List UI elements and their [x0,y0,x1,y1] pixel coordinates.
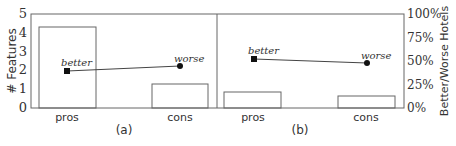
better-marker-a [64,68,70,74]
y2tick-25: 25% [407,78,434,92]
y-axis-label-right: Better/Worse Hotels [438,6,451,117]
bar-b-pros [224,92,281,108]
xlabel-b-pros: pros [241,111,265,124]
ytick-3: 3 [19,44,27,59]
y2tick-50: 50% [407,54,434,68]
better-label-a: better [61,57,93,68]
ytick-0: 0 [19,100,27,115]
worse-label-a: worse [174,53,204,64]
y2tick-100: 100% [407,7,441,21]
ytick-4: 4 [19,25,27,40]
panel-caption-b: (b) [292,123,309,137]
bar-a-cons [152,84,208,108]
ytick-1: 1 [19,81,27,96]
chart-figure: 0 1 2 3 4 5 # Features 0% 25% 50% 75% 10… [0,0,456,146]
worse-label-b: worse [361,50,391,61]
panel-caption-a: (a) [116,123,133,137]
y2tick-0: 0% [407,101,426,115]
y-axis-label-left: # Features [5,28,19,93]
x-labels: pros cons pros cons [55,111,379,124]
xlabel-b-cons: cons [353,111,379,124]
left-y-ticks: 0 1 2 3 4 5 [19,6,27,115]
xlabel-a-cons: cons [167,111,193,124]
ytick-5: 5 [19,6,27,21]
y2tick-75: 75% [407,31,434,45]
better-label-b: better [248,45,280,56]
line-b [254,59,367,63]
bar-b-cons [338,96,395,108]
xlabel-a-pros: pros [55,111,79,124]
right-y-ticks: 0% 25% 50% 75% 100% [407,7,441,115]
ytick-2: 2 [19,62,27,77]
better-marker-b [251,56,257,62]
